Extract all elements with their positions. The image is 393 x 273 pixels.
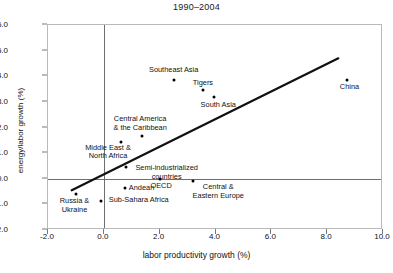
y-axis-tick-label: -2.0 (0, 225, 8, 234)
y-axis-tick-mark (42, 203, 47, 204)
data-point-label: Tigers (193, 79, 213, 88)
scatter-chart: 1990–2004 energy/labor growth (%) labor … (0, 0, 393, 273)
y-axis-tick-mark (42, 75, 47, 76)
x-axis-label: labor productivity growth (%) (0, 250, 393, 260)
y-axis-tick-mark (42, 100, 47, 101)
y-axis-tick-mark (42, 152, 47, 153)
data-point (123, 186, 126, 189)
x-axis-tick-mark (103, 229, 104, 234)
data-point-label: South Asia (201, 101, 236, 110)
y-axis-tick-mark (42, 177, 47, 178)
data-point-label: Central & Eastern Europe (193, 183, 244, 200)
y-axis-tick-label: 3.0 (0, 96, 8, 105)
y-axis-tick-label: 1.0 (0, 148, 8, 157)
data-point (100, 199, 103, 202)
y-axis-tick-label: -1.0 (0, 199, 8, 208)
plot-area: Southeast AsiaTigersSouth AsiaChinaCentr… (47, 24, 382, 229)
chart-title: 1990–2004 (0, 2, 393, 12)
x-axis-tick-mark (47, 229, 48, 234)
data-point-label: Southeast Asia (149, 66, 198, 75)
data-point-label: Middle East & North Africa (85, 144, 131, 161)
x-axis-tick-mark (382, 229, 383, 234)
data-point (140, 135, 143, 138)
x-axis-tick-label: 10.0 (362, 232, 393, 241)
x-axis-tick-mark (270, 229, 271, 234)
y-axis-tick-label: 4.0 (0, 71, 8, 80)
y-axis-tick-label: 2.0 (0, 122, 8, 131)
y-axis-label: energy/labor growth (%) (16, 56, 25, 206)
y-axis-tick-label: 5.0 (0, 45, 8, 54)
data-point (213, 95, 216, 98)
data-point-label: Semi-industrialized countries (135, 164, 197, 181)
data-point (172, 79, 175, 82)
data-point (125, 166, 128, 169)
y-axis-tick-mark (42, 49, 47, 50)
y-axis-tick-label: 0.0 (0, 173, 8, 182)
data-point-label: Sub-Sahara Africa (109, 196, 169, 205)
y-axis-tick-mark (42, 126, 47, 127)
x-axis-tick-mark (159, 229, 160, 234)
data-point-label: China (340, 83, 359, 92)
y-axis-tick-label: 6.0 (0, 20, 8, 29)
data-point-label: Central America & the Caribbean (113, 115, 166, 132)
data-point-label: Andean (129, 184, 154, 193)
x-axis-tick-mark (215, 229, 216, 234)
data-point-label: Russia & Ukraine (60, 197, 90, 214)
y-axis-tick-mark (42, 24, 47, 25)
data-point (201, 89, 204, 92)
x-axis-tick-mark (326, 229, 327, 234)
